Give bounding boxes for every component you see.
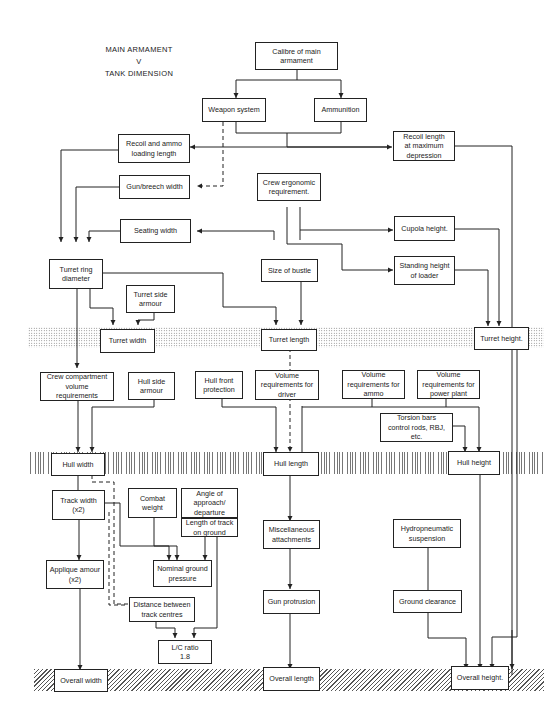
node-turret-side-armour: Turret side armour: [126, 285, 175, 313]
node-recoil-ammo-loading-length: Recoil and ammo loading length: [118, 134, 190, 163]
title-line-1: MAIN ARMAMENT: [94, 44, 184, 56]
node-miscellaneous-attachments: Miscellaneous attachments: [263, 520, 320, 549]
node-hull-side-armour: Hull side armour: [128, 372, 175, 400]
node-cupola-height: Cupola height.: [394, 216, 455, 241]
node-ground-clearance: Ground clearance: [393, 590, 462, 613]
node-distance-between-track-centres: Distance between track centres: [129, 597, 195, 622]
title-line-3: TANK DIMENSION: [94, 68, 184, 80]
node-crew-ergonomic-requirement: Crew ergonomic requirement.: [257, 173, 321, 201]
node-gun-breech-width: Gun/breech width: [119, 175, 190, 199]
node-hull-length: Hull length: [263, 452, 319, 476]
node-seating-width: Seating width: [120, 219, 191, 243]
node-weapon-system: Weapon system: [202, 98, 266, 122]
node-turret-width: Turret width: [100, 329, 155, 353]
node-volume-requirements-ammo: Volume requirements for ammo: [342, 370, 405, 399]
node-ammunition: Ammunition: [314, 98, 367, 122]
node-track-width: Track width (x2): [52, 490, 105, 520]
connector-lines: [0, 0, 559, 728]
node-hull-height: Hull height: [448, 451, 500, 475]
node-angle-of-approach: Angle of approach/ departure: [181, 488, 238, 518]
node-turret-ring-diameter: Turret ring diameter: [49, 259, 103, 289]
node-length-of-track-on-ground: Length of track on ground: [181, 518, 238, 537]
node-size-of-bustle: Size of bustle: [261, 259, 318, 282]
node-recoil-length-max-depression: Recoil length at maximum depression: [393, 131, 455, 161]
node-gun-protrusion: Gun protrusion: [263, 590, 320, 614]
title-line-2: V: [94, 56, 184, 68]
node-nominal-ground-pressure: Nominal ground pressure: [153, 560, 212, 587]
node-hull-width: Hull width: [51, 453, 105, 476]
node-hydropneumatic-suspension: Hydropneumatic suspension: [393, 519, 461, 548]
node-standing-height-of-loader: Standing height of loader: [394, 256, 455, 285]
node-volume-requirements-driver: Volume requirements for driver: [255, 370, 319, 400]
node-torsion-bars: Torsion bars control rods, RBJ, etc.: [380, 413, 453, 442]
node-overall-height: Overall height.: [451, 666, 509, 690]
node-overall-length: Overall length: [263, 667, 320, 691]
diagram-title: MAIN ARMAMENT V TANK DIMENSION: [94, 44, 184, 80]
node-volume-requirements-power-plant: Volume requirements for power plant: [417, 370, 480, 399]
node-lc-ratio: L/C ratio 1.8: [158, 640, 212, 664]
node-turret-height: Turret height.: [474, 327, 529, 350]
node-combat-weight: Combat weight: [128, 488, 177, 518]
node-hull-front-protection: Hull front protection: [195, 371, 243, 399]
node-calibre-of-main-armament: Calibre of main armament: [255, 42, 338, 70]
node-overall-width: Overall width: [54, 669, 108, 692]
node-applique-armour: Applique amour (x2): [46, 560, 104, 589]
node-turret-length: Turret length: [261, 329, 317, 351]
node-crew-compartment-volume: Crew compartment volume requirements: [40, 372, 114, 401]
